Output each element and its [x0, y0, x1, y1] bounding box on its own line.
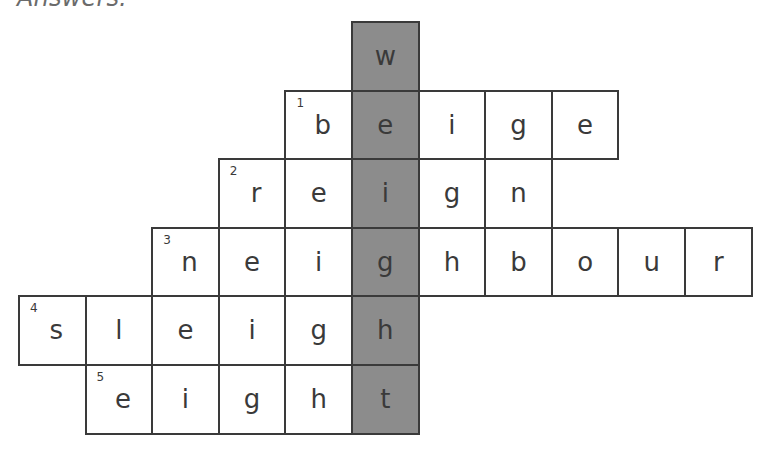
cell-letter: i: [353, 178, 418, 208]
crossword-cell: i: [284, 227, 353, 298]
cell-letter: i: [286, 247, 351, 277]
crossword-cell: b: [484, 227, 553, 298]
crossword-cell: 1b: [284, 90, 353, 161]
cell-letter: g: [420, 178, 485, 208]
cell-letter: e: [87, 384, 152, 414]
cell-letter: g: [353, 247, 418, 277]
crossword-cell: i: [218, 295, 287, 366]
crossword-cell: g: [284, 295, 353, 366]
clue-number: 5: [97, 370, 105, 384]
cell-letter: u: [619, 247, 684, 277]
crossword-cell: h: [284, 364, 353, 435]
shaded-cell: i: [351, 158, 420, 229]
clue-number: 2: [230, 164, 238, 178]
crossword-cell: l: [85, 295, 154, 366]
cell-letter: o: [553, 247, 618, 277]
crossword-cell: i: [151, 364, 220, 435]
cell-letter: g: [486, 110, 551, 140]
cell-letter: g: [220, 384, 285, 414]
cell-letter: h: [420, 247, 485, 277]
cell-letter: t: [353, 384, 418, 414]
cell-letter: e: [220, 247, 285, 277]
cell-letter: n: [153, 247, 218, 277]
cell-letter: b: [286, 110, 351, 140]
cell-letter: s: [20, 315, 85, 345]
cell-letter: w: [353, 41, 418, 71]
crossword-cell: 3n: [151, 227, 220, 298]
cell-letter: r: [686, 247, 751, 277]
crossword-cell: o: [551, 227, 620, 298]
shaded-cell: e: [351, 90, 420, 161]
crossword-cell: 5e: [85, 364, 154, 435]
crossword-cell: 4s: [18, 295, 87, 366]
crossword-cell: i: [418, 90, 487, 161]
crossword-cell: u: [617, 227, 686, 298]
crossword-cell: g: [418, 158, 487, 229]
crossword-cell: e: [551, 90, 620, 161]
cell-letter: e: [286, 178, 351, 208]
cell-letter: e: [153, 315, 218, 345]
cell-letter: h: [286, 384, 351, 414]
shaded-cell: h: [351, 295, 420, 366]
cell-letter: i: [153, 384, 218, 414]
crossword-cell: e: [284, 158, 353, 229]
crossword-cell: h: [418, 227, 487, 298]
cell-letter: l: [87, 315, 152, 345]
cell-letter: b: [486, 247, 551, 277]
cell-letter: e: [353, 110, 418, 140]
shaded-cell: g: [351, 227, 420, 298]
cell-letter: n: [486, 178, 551, 208]
crossword-cell: e: [151, 295, 220, 366]
shaded-cell: t: [351, 364, 420, 435]
cell-letter: g: [286, 315, 351, 345]
crossword-cell: e: [218, 227, 287, 298]
crossword-cell: g: [218, 364, 287, 435]
crossword-cell: r: [684, 227, 753, 298]
clue-number: 3: [163, 233, 171, 247]
cell-letter: i: [420, 110, 485, 140]
cell-letter: e: [553, 110, 618, 140]
cell-letter: r: [220, 178, 285, 208]
crossword-cell: n: [484, 158, 553, 229]
cell-letter: i: [220, 315, 285, 345]
cell-letter: h: [353, 315, 418, 345]
shaded-cell: w: [351, 21, 420, 92]
crossword-grid: w1beige2reign3neighbour4sleigh5eight: [0, 0, 771, 451]
clue-number: 4: [30, 301, 38, 315]
crossword-cell: g: [484, 90, 553, 161]
clue-number: 1: [296, 96, 304, 110]
crossword-cell: 2r: [218, 158, 287, 229]
